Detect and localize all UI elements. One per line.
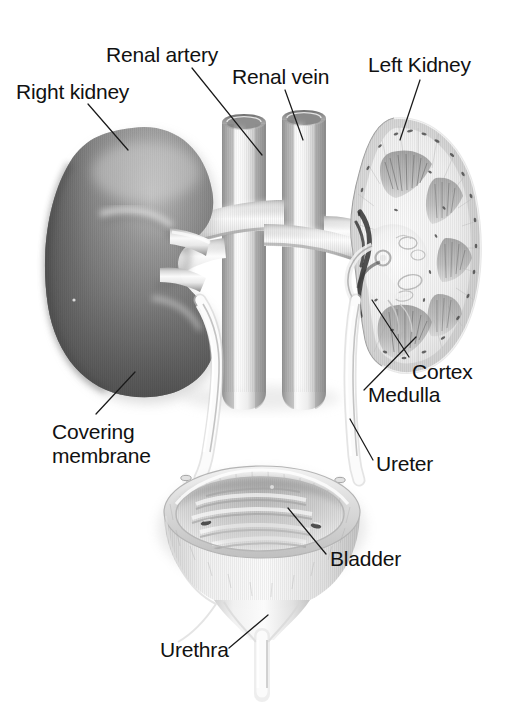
label-urethra: Urethra xyxy=(160,638,229,662)
label-covering-membrane: Covering membrane xyxy=(52,420,151,467)
label-cortex: Cortex xyxy=(412,360,473,384)
label-bladder: Bladder xyxy=(330,547,401,571)
label-ureter: Ureter xyxy=(376,452,433,476)
label-renal-artery: Renal artery xyxy=(106,43,218,67)
aorta xyxy=(222,114,266,410)
label-right-kidney: Right kidney xyxy=(16,80,129,104)
label-renal-vein: Renal vein xyxy=(232,65,329,89)
urinary-system-figure: Right kidney Renal artery Renal vein Lef… xyxy=(0,0,520,728)
urethra xyxy=(258,636,267,694)
inferior-vena-cava xyxy=(282,110,326,410)
label-medulla: Medulla xyxy=(368,383,440,407)
label-left-kidney: Left Kidney xyxy=(368,53,471,77)
